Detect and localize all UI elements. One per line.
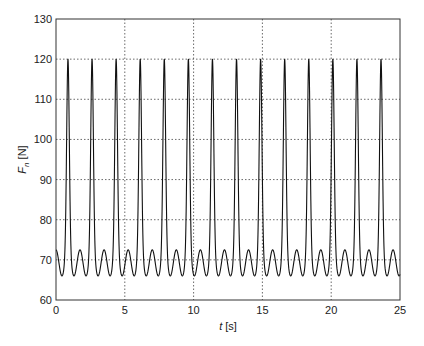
y-tick-label: 110: [34, 93, 52, 105]
y-tick-label: 130: [34, 13, 52, 25]
y-tick-label: 100: [34, 133, 52, 145]
y-axis-ticks: 60708090100110120130: [34, 13, 52, 306]
y-tick-label: 120: [34, 53, 52, 65]
x-tick-label: 10: [187, 304, 199, 316]
x-axis-label: t [s]: [219, 320, 237, 332]
y-tick-label: 70: [40, 254, 52, 266]
chart: 0510152025 60708090100110120130 t [s] Fn…: [0, 0, 424, 346]
x-tick-label: 15: [256, 304, 268, 316]
y-tick-label: 60: [40, 294, 52, 306]
x-tick-label: 25: [394, 304, 406, 316]
plot-frame: [56, 19, 400, 300]
x-tick-label: 20: [325, 304, 337, 316]
y-tick-label: 80: [40, 214, 52, 226]
force-curve: [56, 59, 400, 275]
x-axis-ticks: 0510152025: [53, 304, 406, 316]
y-axis-unit: [N]: [16, 145, 28, 162]
x-tick-label: 0: [53, 304, 59, 316]
x-axis-unit: [s]: [222, 320, 237, 332]
y-axis-label: Fn [N]: [16, 145, 31, 173]
y-tick-label: 90: [40, 174, 52, 186]
grid-lines: [56, 19, 400, 300]
x-tick-label: 5: [122, 304, 128, 316]
